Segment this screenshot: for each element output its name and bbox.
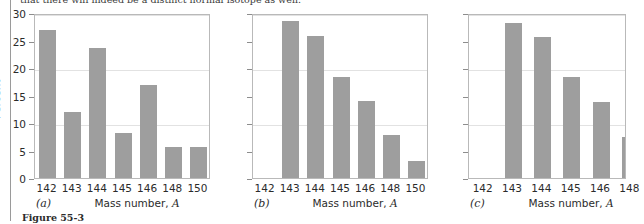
gridline bbox=[35, 70, 209, 71]
y-axis-tick bbox=[29, 97, 34, 98]
y-axis-tick bbox=[29, 152, 34, 153]
y-axis-tick-label: 5 bbox=[0, 147, 26, 157]
bar bbox=[408, 161, 425, 178]
y-axis-tick bbox=[29, 124, 34, 125]
x-axis-tick-label: 150 bbox=[400, 183, 430, 194]
x-axis-tick-label: 150 bbox=[182, 183, 212, 194]
y-axis-tick-label: 20 bbox=[0, 64, 26, 74]
bar bbox=[39, 30, 56, 178]
y-axis-tick bbox=[247, 152, 252, 153]
bar bbox=[165, 147, 182, 178]
y-axis-title: Percent bbox=[0, 79, 2, 119]
y-axis-tick bbox=[463, 42, 468, 43]
plot-area bbox=[468, 14, 626, 179]
x-axis-tick-label: 143 bbox=[497, 183, 527, 194]
y-axis-tick bbox=[463, 152, 468, 153]
y-axis-tick bbox=[29, 14, 34, 15]
x-axis-tick-label: 145 bbox=[556, 183, 586, 194]
bar bbox=[593, 102, 610, 178]
bar bbox=[622, 137, 626, 178]
figure-caption: Figure 55-3 bbox=[22, 212, 322, 224]
y-axis-tick bbox=[463, 179, 468, 180]
x-axis-tick-label: 148 bbox=[614, 183, 644, 194]
gridline bbox=[35, 15, 209, 16]
y-axis-tick bbox=[29, 179, 34, 180]
gridline bbox=[253, 15, 427, 16]
panel-letter-label: (b) bbox=[254, 198, 270, 209]
gridline bbox=[469, 15, 625, 16]
bar bbox=[534, 37, 551, 178]
bar bbox=[333, 77, 350, 178]
y-axis-tick bbox=[247, 69, 252, 70]
y-axis-tick-label: 15 bbox=[0, 92, 26, 102]
x-axis-tick-label: 144 bbox=[526, 183, 556, 194]
bar bbox=[190, 147, 207, 178]
panel-letter-label: (c) bbox=[470, 198, 485, 209]
y-axis-tick bbox=[247, 14, 252, 15]
x-axis-title: Mass number, A bbox=[64, 198, 210, 209]
y-axis-tick bbox=[463, 69, 468, 70]
bar bbox=[383, 135, 400, 178]
panel-letter-label: (a) bbox=[36, 198, 51, 209]
x-axis-tick-label: 146 bbox=[585, 183, 615, 194]
y-axis-tick bbox=[247, 97, 252, 98]
y-axis-tick-label: 25 bbox=[0, 37, 26, 47]
bar bbox=[89, 48, 106, 178]
bar bbox=[282, 21, 299, 178]
y-axis-tick bbox=[247, 179, 252, 180]
y-axis-tick bbox=[29, 42, 34, 43]
plot-area bbox=[252, 14, 428, 179]
y-axis-tick bbox=[29, 69, 34, 70]
y-axis-tick bbox=[247, 42, 252, 43]
y-axis-tick-label: 30 bbox=[0, 9, 26, 19]
bar bbox=[64, 112, 81, 178]
bar bbox=[140, 85, 157, 178]
x-axis-title: Mass number, A bbox=[498, 198, 644, 209]
bar bbox=[358, 101, 375, 178]
y-axis-tick-label: 10 bbox=[0, 119, 26, 129]
plot-area bbox=[34, 14, 210, 179]
y-axis-tick bbox=[463, 124, 468, 125]
y-axis-tick bbox=[463, 97, 468, 98]
x-axis-title: Mass number, A bbox=[282, 198, 428, 209]
gridline bbox=[35, 125, 209, 126]
y-axis-tick bbox=[247, 124, 252, 125]
bar bbox=[563, 77, 580, 178]
running-head-text: that there will indeed be a distinct nor… bbox=[20, 0, 620, 6]
y-axis-tick bbox=[463, 14, 468, 15]
bar bbox=[115, 133, 132, 178]
gridline bbox=[253, 70, 427, 71]
bar bbox=[307, 36, 324, 178]
page-margin-rule bbox=[10, 0, 11, 221]
y-axis-tick-label: 0 bbox=[0, 174, 26, 184]
bar bbox=[505, 23, 522, 178]
x-axis-tick-label: 142 bbox=[468, 183, 498, 194]
